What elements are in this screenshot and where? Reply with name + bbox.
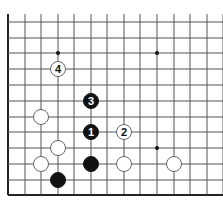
white-stone-4: 4 [51,62,66,77]
white-stone [34,157,49,172]
star-point [56,51,60,55]
star-point [155,146,159,150]
white-stone-disc [34,157,49,172]
white-stone-2: 2 [117,125,132,140]
white-stone [167,157,182,172]
move-number-label: 1 [88,126,94,138]
star-point [155,51,159,55]
black-stone-disc [51,173,66,188]
black-stone [84,157,99,172]
black-stone [51,173,66,188]
black-stone-1: 1 [84,125,99,140]
white-stone-disc [34,110,49,125]
white-stone-disc [117,157,132,172]
black-stone-3: 3 [84,94,99,109]
move-number-label: 3 [88,95,94,107]
white-stone [51,141,66,156]
white-stone-disc [51,141,66,156]
move-number-label: 4 [55,63,62,75]
go-board-diagram: 4312 [0,0,223,206]
white-stone [117,157,132,172]
white-stone-disc [167,157,182,172]
move-number-label: 2 [121,126,127,138]
black-stone-disc [84,157,99,172]
white-stone [34,110,49,125]
